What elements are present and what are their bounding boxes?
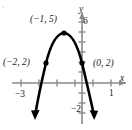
y-tick-label-neg2: −2 bbox=[71, 105, 81, 115]
point-marker-left bbox=[43, 60, 48, 65]
x-axis bbox=[12, 80, 126, 87]
x-axis-label: x bbox=[120, 74, 124, 84]
parabola-figure: • bbox=[0, 0, 132, 130]
point-marker-vertex bbox=[61, 30, 66, 35]
x-tick-label-neg3: −3 bbox=[15, 90, 25, 100]
point-label-right: (0, 2) bbox=[93, 59, 114, 69]
point-marker-right bbox=[79, 60, 84, 65]
point-label-left: (−2, 2) bbox=[3, 58, 30, 68]
y-axis-label: y bbox=[79, 5, 83, 15]
y-tick-label-6: 6 bbox=[83, 17, 88, 27]
parabola-curve bbox=[31, 33, 98, 120]
right-branch-arrowhead bbox=[90, 110, 99, 120]
left-branch-arrowhead bbox=[31, 110, 40, 120]
point-label-vertex: (−1, 5) bbox=[30, 15, 57, 25]
x-tick-label-1: 1 bbox=[109, 89, 114, 99]
